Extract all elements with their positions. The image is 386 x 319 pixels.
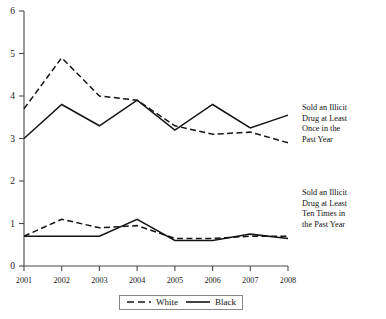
x-tick-label-2003: 2003 — [91, 276, 107, 285]
legend-item-black: Black — [185, 297, 236, 307]
y-axis-ticks — [19, 11, 24, 266]
annotation-lower-line-2: Drug at Least — [302, 199, 386, 210]
legend-dashed-swatch-icon — [126, 297, 152, 307]
chart-container: 0 1 2 3 4 5 6 2001 2002 2003 2004 2005 2 — [0, 0, 386, 319]
x-axis-labels: 2001 2002 2003 2004 2005 2006 2007 2008 — [16, 276, 296, 285]
y-tick-label-6: 6 — [10, 6, 15, 16]
annotation-lower-line-3: Ten Times in — [302, 209, 386, 220]
legend-label-white: White — [156, 297, 178, 307]
annotation-sold-ten-times: Sold an Illicit Drug at Least Ten Times … — [302, 188, 386, 230]
y-tick-label-3: 3 — [10, 134, 15, 144]
annotation-lower-line-4: the Past Year — [302, 220, 386, 231]
legend-label-black: Black — [215, 297, 236, 307]
chart-legend: White Black — [119, 295, 243, 310]
annotation-upper-line-1: Sold an Illicit — [302, 103, 386, 114]
x-axis-ticks — [24, 266, 288, 271]
y-tick-label-1: 1 — [10, 219, 15, 229]
line-chart-svg: 0 1 2 3 4 5 6 2001 2002 2003 2004 2005 2 — [0, 0, 386, 319]
x-tick-label-2002: 2002 — [54, 276, 70, 285]
y-axis-labels: 0 1 2 3 4 5 6 — [10, 6, 15, 271]
legend-item-white: White — [126, 297, 178, 307]
y-tick-label-4: 4 — [10, 91, 15, 101]
x-tick-label-2005: 2005 — [167, 276, 183, 285]
annotation-upper-line-3: Once in the — [302, 124, 386, 135]
data-series-group — [24, 58, 288, 241]
annotation-upper-line-4: Past Year — [302, 135, 386, 146]
y-tick-label-5: 5 — [10, 49, 15, 59]
series-white-once — [24, 58, 288, 143]
x-tick-label-2007: 2007 — [242, 276, 258, 285]
y-tick-label-0: 0 — [10, 261, 15, 271]
annotation-lower-line-1: Sold an Illicit — [302, 188, 386, 199]
series-black-ten — [24, 219, 288, 240]
annotation-upper-line-2: Drug at Least — [302, 114, 386, 125]
annotation-sold-once: Sold an Illicit Drug at Least Once in th… — [302, 103, 386, 145]
x-tick-label-2006: 2006 — [204, 276, 220, 285]
x-tick-label-2008: 2008 — [280, 276, 296, 285]
y-tick-label-2: 2 — [10, 176, 15, 186]
x-tick-label-2004: 2004 — [129, 276, 145, 285]
x-tick-label-2001: 2001 — [16, 276, 32, 285]
legend-solid-swatch-icon — [185, 297, 211, 307]
